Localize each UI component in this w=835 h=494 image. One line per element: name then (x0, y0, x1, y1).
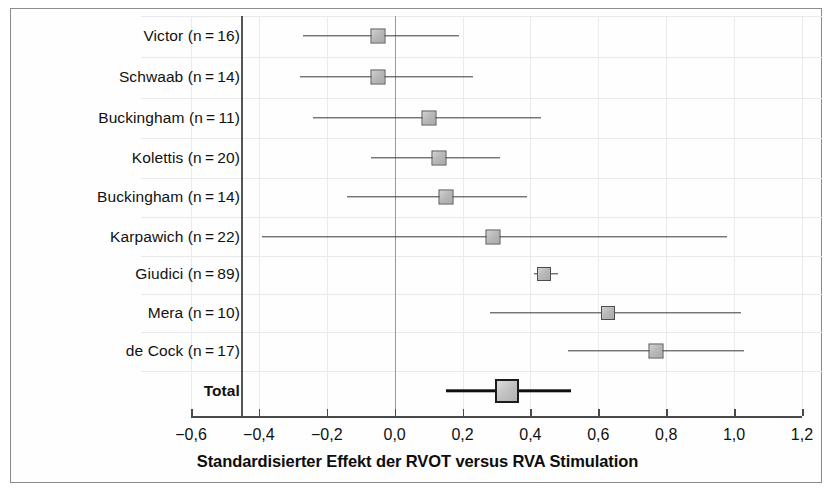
study-row-label: Kolettis (n = 20) (132, 149, 240, 167)
effect-marker (601, 306, 615, 320)
x-axis-tick-label: 0,4 (519, 426, 541, 444)
gridline-horizontal (141, 57, 822, 58)
x-axis-line (191, 416, 802, 418)
y-axis-line (241, 16, 243, 416)
gridline-vertical (802, 16, 803, 416)
confidence-interval-line (300, 76, 473, 77)
x-axis-tick-label: 1,2 (791, 426, 813, 444)
gridline-vertical (598, 16, 599, 416)
gridline-horizontal (141, 256, 822, 257)
x-axis-tick (666, 409, 668, 416)
study-row-label: Mera (n = 10) (148, 304, 240, 322)
effect-marker (421, 111, 436, 126)
study-row-label: Karpawich (n = 22) (110, 228, 240, 246)
gridline-horizontal (141, 217, 822, 218)
study-row-label: Buckingham (n = 14) (97, 188, 240, 206)
x-axis-tick-label: 0,0 (384, 426, 406, 444)
gridline-vertical (666, 16, 667, 416)
effect-marker (431, 151, 446, 166)
x-axis-tick (734, 409, 736, 416)
study-row-label: Buckingham (n = 11) (98, 109, 240, 127)
gridline-horizontal (141, 98, 822, 99)
x-axis-title: Standardisierter Effekt der RVOT versus … (0, 452, 835, 471)
effect-marker (486, 230, 501, 245)
gridline-vertical (734, 16, 735, 416)
study-labels-column: Victor (n = 16)Schwaab (n = 14)Buckingha… (18, 0, 240, 494)
effect-marker (370, 70, 385, 85)
study-row-label: Schwaab (n = 14) (119, 68, 240, 86)
total-effect-marker (495, 379, 519, 403)
x-axis-tick-label: 0,6 (587, 426, 609, 444)
x-axis-tick (259, 409, 261, 416)
forest-plot-figure: −0,6−0,4−0,20,00,20,40,60,81,01,2 Victor… (0, 0, 835, 494)
gridline-horizontal (141, 332, 822, 333)
x-axis-tick (463, 409, 465, 416)
x-axis-tick-label: 1,0 (723, 426, 745, 444)
effect-marker (370, 29, 385, 44)
confidence-interval-line (347, 196, 527, 197)
gridline-horizontal (141, 371, 822, 372)
x-axis-tick (395, 409, 397, 416)
study-row-label: de Cock (n = 17) (126, 342, 240, 360)
gridline-vertical (530, 16, 531, 416)
study-row-label: Victor (n = 16) (143, 27, 240, 45)
effect-marker (537, 267, 551, 281)
x-axis-tick-label: 0,8 (655, 426, 677, 444)
x-axis-tick (530, 409, 532, 416)
x-axis-tick-label: 0,2 (451, 426, 473, 444)
x-axis-tick (802, 409, 804, 416)
x-axis-tick (598, 409, 600, 416)
study-row-label: Giudici (n = 89) (135, 265, 240, 283)
x-axis-tick (327, 409, 329, 416)
gridline-horizontal (141, 178, 822, 179)
gridline-horizontal (141, 294, 822, 295)
x-axis-tick-label: −0,2 (311, 426, 343, 444)
gridline-vertical (259, 16, 260, 416)
gridline-horizontal (141, 138, 822, 139)
effect-marker (438, 190, 453, 205)
x-axis-tick-label: −0,4 (243, 426, 275, 444)
effect-marker (648, 344, 663, 359)
gridline-horizontal (141, 16, 822, 17)
total-row-label: Total (204, 382, 240, 400)
